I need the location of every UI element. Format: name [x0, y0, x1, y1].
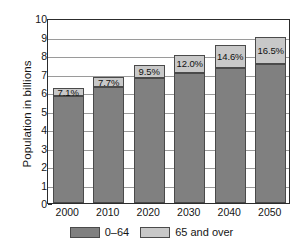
x-axis-tick-label: 2000	[56, 206, 79, 218]
bar-segment-young[interactable]	[53, 96, 84, 203]
y-axis-tick-label: 10	[31, 13, 47, 25]
gridline	[48, 57, 289, 58]
bar-group[interactable]: 9.5%	[134, 18, 165, 203]
y-axis-tick-label: 6	[31, 87, 47, 99]
bar-group[interactable]: 16.5%	[255, 18, 286, 203]
gridline	[48, 150, 289, 151]
chart-figure: Population in billions 012345678910 7.1%…	[0, 0, 303, 249]
bar-segment-young[interactable]	[174, 73, 205, 203]
bar-segment-old[interactable]: 7.7%	[93, 77, 124, 87]
y-axis-tick-mark	[48, 204, 52, 205]
y-axis-tick-label: 3	[31, 143, 47, 155]
bar-group[interactable]: 7.7%	[93, 18, 124, 203]
bar-group[interactable]: 12.0%	[174, 18, 205, 203]
legend-item[interactable]: 0–64	[70, 226, 129, 238]
bar-percent-label: 14.6%	[217, 51, 243, 62]
gridline	[48, 94, 289, 95]
y-axis-tick-label: 4	[31, 124, 47, 136]
gridline	[48, 131, 289, 132]
bar-segment-old[interactable]: 12.0%	[174, 55, 205, 73]
legend-swatch	[70, 227, 100, 238]
gridline	[48, 113, 289, 114]
bar-segment-young[interactable]	[255, 64, 286, 203]
x-axis-tick-label: 2010	[96, 206, 119, 218]
bar-percent-label: 16.5%	[258, 45, 284, 56]
bar-percent-label: 12.0%	[177, 58, 203, 69]
y-axis-tick-label: 9	[31, 32, 47, 44]
gridline	[48, 168, 289, 169]
bar-segment-old[interactable]: 9.5%	[134, 65, 165, 78]
x-axis-tick-label: 2050	[258, 206, 281, 218]
bar-group[interactable]: 14.6%	[215, 18, 246, 203]
legend-item[interactable]: 65 and over	[140, 226, 233, 238]
y-axis-tick-label: 5	[31, 106, 47, 118]
bar-segment-young[interactable]	[134, 78, 165, 203]
plot-area: 7.1%7.7%9.5%12.0%14.6%16.5%	[47, 19, 290, 204]
y-axis-tick-label: 0	[31, 198, 47, 210]
bar-segment-old[interactable]: 16.5%	[255, 37, 286, 64]
legend-swatch	[140, 227, 170, 238]
x-axis-tick-label: 2030	[177, 206, 200, 218]
gridline	[48, 187, 289, 188]
bar-percent-label: 7.7%	[98, 77, 119, 88]
bar-segment-young[interactable]	[93, 87, 124, 203]
gridline	[48, 76, 289, 77]
x-axis-tick-container: 200020102020203020402050	[47, 206, 290, 222]
y-axis-tick-label: 8	[31, 50, 47, 62]
y-axis-tick-label: 2	[31, 161, 47, 173]
bar-percent-label: 7.1%	[58, 87, 79, 98]
y-axis-tick-label: 7	[31, 69, 47, 81]
y-axis-tick-container: 012345678910	[25, 19, 47, 204]
legend-label: 65 and over	[175, 226, 233, 238]
gridline	[48, 39, 289, 40]
x-axis-tick-label: 2020	[137, 206, 160, 218]
x-axis-tick-label: 2040	[218, 206, 241, 218]
bar-segment-young[interactable]	[215, 68, 246, 203]
bar-segment-old[interactable]: 7.1%	[53, 88, 84, 96]
legend-label: 0–64	[105, 226, 129, 238]
bar-percent-label: 9.5%	[139, 66, 160, 77]
chart-legend: 0–6465 and over	[0, 226, 303, 238]
y-axis-tick-label: 1	[31, 180, 47, 192]
bar-segment-old[interactable]: 14.6%	[215, 45, 246, 68]
bar-group[interactable]: 7.1%	[53, 18, 84, 203]
